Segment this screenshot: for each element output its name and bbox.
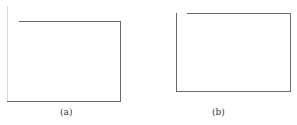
figure-b-top-edge bbox=[187, 13, 291, 14]
figure-b-right-edge bbox=[290, 13, 291, 92]
figure-b-bottom-edge bbox=[176, 91, 291, 92]
figure-a-bottom-edge bbox=[7, 101, 121, 102]
figure-a-left-edge bbox=[7, 6, 8, 102]
figure-a-right-edge bbox=[120, 21, 121, 102]
figure-b-caption: (b) bbox=[212, 107, 225, 117]
figure-b-left-edge bbox=[176, 13, 177, 92]
figure-a-top-edge bbox=[19, 21, 121, 22]
figure-a-caption: (a) bbox=[60, 107, 72, 117]
